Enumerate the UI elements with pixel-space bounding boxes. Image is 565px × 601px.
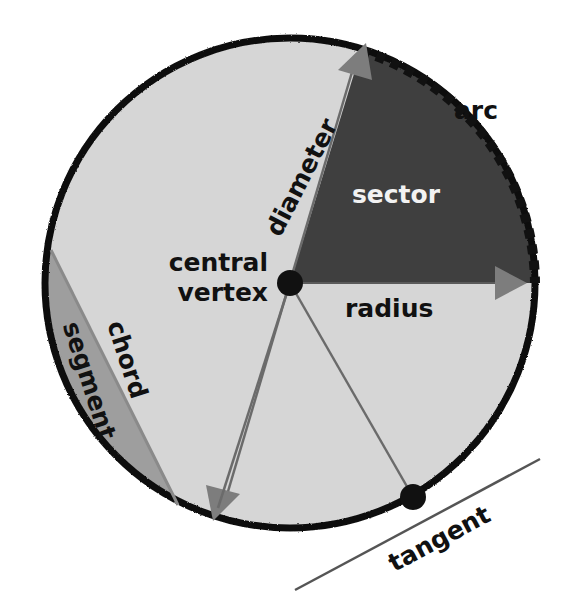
central-vertex-label-line1: central	[169, 248, 268, 277]
central-vertex-group	[277, 270, 303, 296]
tangent-point-dot	[400, 484, 426, 510]
circle-geometry-diagram: arc sector radius diameter chord segment…	[0, 0, 565, 601]
diagram-canvas: arc sector radius diameter chord segment…	[0, 0, 565, 601]
central-vertex-label-line2: vertex	[177, 278, 268, 307]
radius-label: radius	[345, 294, 433, 323]
central-vertex-dot	[277, 270, 303, 296]
sector-label: sector	[352, 180, 441, 209]
arc-label: arc	[454, 96, 498, 125]
